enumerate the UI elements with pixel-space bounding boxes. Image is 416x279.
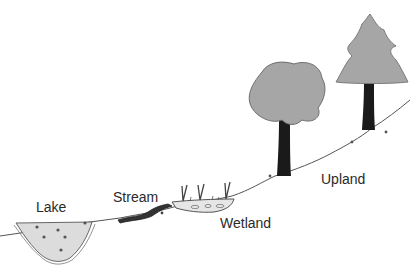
ground-line [0,100,410,236]
landscape-illustration [0,0,416,279]
wetland-label: Wetland [220,215,271,231]
lake-label: Lake [36,199,66,215]
upland-label: Upland [321,171,365,187]
conifer-tree [336,14,408,143]
stream [118,204,172,223]
stream-label: Stream [113,189,158,205]
landscape-diagram: Lake Stream Wetland Upland [0,0,416,279]
deciduous-tree [249,62,325,177]
lake [14,221,95,264]
